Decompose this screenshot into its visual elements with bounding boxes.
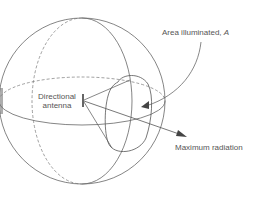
antenna-sphere-diagram: Area illuminated, A Directional antenna … (0, 0, 271, 205)
directional-antenna-label: Directional antenna (33, 92, 81, 110)
directional-antenna-line1: Directional (33, 92, 81, 101)
directional-antenna-line2: antenna (33, 101, 81, 110)
area-pointer-line (146, 42, 201, 106)
illuminated-area (105, 76, 151, 152)
edge-shadow (0, 88, 3, 114)
maximum-radiation-label: Maximum radiation (175, 143, 243, 152)
area-illuminated-label: Area illuminated, A (162, 28, 229, 37)
area-pointer-arrowhead (141, 101, 149, 109)
area-symbol: A (224, 28, 229, 37)
beam-upper (84, 80, 130, 100)
max-radiation-arrowhead (176, 130, 187, 137)
max-radiation-line (84, 101, 182, 135)
area-illuminated-text: Area illuminated, (162, 28, 224, 37)
